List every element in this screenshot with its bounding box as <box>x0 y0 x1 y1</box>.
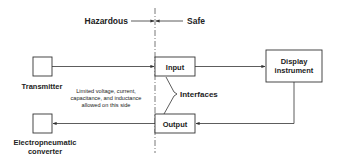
output-label: Output <box>163 120 188 129</box>
intrinsic-safety-diagram: Hazardous Safe Transmitter Input Display… <box>0 0 339 159</box>
display-label-line1: Display <box>281 57 309 66</box>
display-to-output-arrow <box>196 82 294 124</box>
transmitter-box <box>33 57 52 76</box>
display-label-line2: instrument <box>275 66 314 75</box>
transmitter-label: Transmitter <box>22 82 63 91</box>
hazardous-label: Hazardous <box>85 16 129 26</box>
converter-label-line2: converter <box>28 147 62 156</box>
limit-note-line1: Limited voltage, current, <box>76 88 136 94</box>
limit-note-line2: capacitance, and inductance <box>71 95 142 101</box>
input-label: Input <box>166 63 185 72</box>
converter-label-line1: Electropneumatic <box>14 138 77 147</box>
safe-label: Safe <box>187 16 205 26</box>
interfaces-brace <box>164 77 177 114</box>
limit-note-line3: allowed on this side <box>82 102 131 108</box>
converter-box <box>33 114 52 133</box>
interfaces-label: Interfaces <box>180 90 218 99</box>
